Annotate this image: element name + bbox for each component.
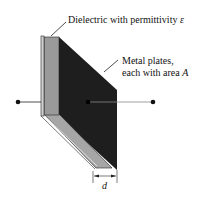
plates-label-line2: each with area A	[122, 67, 189, 78]
separation-label: d	[102, 180, 108, 191]
dielectric-leader-line	[51, 22, 66, 36]
capacitor-diagram: Dielectric with permittivity ε Metal pla…	[0, 0, 200, 202]
right-terminal-dot	[151, 100, 156, 105]
center-terminal-dot	[86, 100, 91, 105]
left-terminal-dot	[16, 100, 21, 105]
plates-label-line1: Metal plates,	[122, 55, 174, 66]
dielectric-label: Dielectric with permittivity ε	[68, 14, 184, 25]
plates-leader-line	[104, 60, 118, 72]
front-metal-plate	[41, 36, 44, 116]
dielectric-slab	[44, 37, 59, 115]
